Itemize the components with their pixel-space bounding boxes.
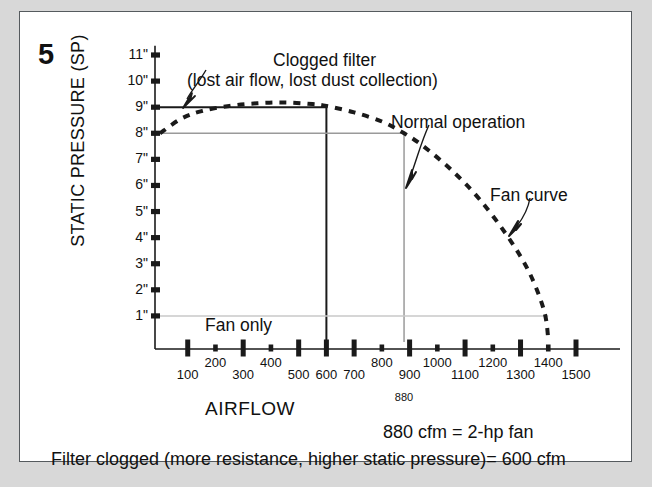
y-tick-9 [151, 105, 160, 110]
arrow-clogged-filter-leader [187, 70, 206, 99]
x-tick-300 [241, 340, 246, 357]
series-fan-curve [160, 102, 548, 339]
arrow-normal-operation-head [406, 170, 416, 188]
x-tick-1100 [463, 340, 468, 357]
arrow-fan-curve-leader [517, 198, 530, 226]
y-tick-label-9: 9" [106, 98, 148, 114]
y-tick-4 [151, 235, 160, 240]
y-tick-label-6: 6" [106, 176, 148, 192]
y-tick-label-1: 1" [106, 307, 148, 323]
x-tick-1200 [491, 345, 496, 352]
x-tick-1000 [435, 345, 440, 352]
reference-lines-group [160, 107, 548, 342]
y-tick-label-10: 10" [106, 72, 148, 88]
y-tick-label-2: 2" [106, 281, 148, 297]
x-tick-200 [213, 345, 218, 352]
x-tick-900 [407, 340, 412, 357]
fan-curve-group [160, 102, 548, 339]
y-tick-7 [151, 157, 160, 162]
figure-frame: 5 STATIC PRESSURE (SP) AIRFLOW Clogged f… [19, 11, 632, 462]
x-tick-1400 [546, 345, 551, 352]
y-tick-10 [151, 78, 160, 83]
x-tick-1300 [518, 340, 523, 357]
x-tick-100 [185, 340, 190, 357]
x-tick-500 [296, 340, 301, 357]
y-tick-6 [151, 183, 160, 188]
y-tick-label-8: 8" [106, 124, 148, 140]
x-tick-700 [352, 340, 357, 357]
x-ticks-group [185, 340, 578, 357]
y-tick-label-11: 11" [106, 46, 148, 62]
x-tick-600 [324, 340, 329, 357]
y-tick-8 [151, 131, 160, 136]
y-tick-1 [151, 313, 160, 318]
axes-group [155, 46, 620, 349]
y-tick-3 [151, 261, 160, 266]
x-tick-1500 [574, 340, 579, 357]
y-tick-11 [151, 52, 160, 57]
y-tick-label-7: 7" [106, 150, 148, 166]
y-tick-label-4: 4" [106, 229, 148, 245]
y-tick-label-3: 3" [106, 255, 148, 271]
y-tick-label-5: 5" [106, 203, 148, 219]
y-tick-2 [151, 287, 160, 292]
annotation-arrows-group [183, 70, 530, 236]
x-tick-800 [380, 345, 385, 352]
x-tick-label-1500: 1500 [554, 367, 598, 382]
y-tick-5 [151, 209, 160, 214]
x-tick-400 [269, 345, 274, 352]
